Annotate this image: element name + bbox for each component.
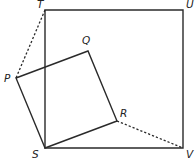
label-R: R [120, 107, 127, 119]
label-Q: Q [82, 34, 90, 46]
label-T: T [37, 0, 45, 10]
square-STUV [45, 10, 183, 148]
geometry-diagram: T U V S P Q R [0, 0, 195, 160]
segment-RV [117, 121, 183, 148]
square-SPQR [16, 51, 117, 148]
label-U: U [186, 0, 194, 10]
label-S: S [32, 148, 39, 160]
segment-TP [16, 10, 45, 78]
label-P: P [4, 72, 11, 84]
label-V: V [186, 148, 194, 160]
